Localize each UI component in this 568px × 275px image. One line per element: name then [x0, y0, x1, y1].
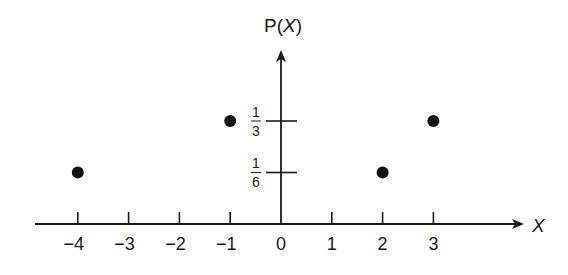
data-point — [427, 115, 439, 127]
x-tick-label: 1 — [327, 234, 337, 254]
probability-plot: −4−3−2−10123 1613 P(X) X — [0, 0, 568, 275]
x-tick-label: −1 — [216, 234, 237, 254]
y-ticks: 1613 — [251, 104, 297, 190]
x-tick-label: 2 — [378, 234, 388, 254]
x-tick-label: −4 — [64, 234, 85, 254]
x-ticks: −4−3−2−10123 — [64, 212, 439, 254]
y-tick-denominator: 6 — [252, 174, 260, 190]
y-tick-denominator: 3 — [252, 123, 260, 139]
x-tick-label: 0 — [276, 234, 286, 254]
data-point — [377, 166, 389, 178]
y-tick-numerator: 1 — [252, 155, 260, 171]
y-axis-label: P(X) — [264, 15, 302, 36]
data-point — [224, 115, 236, 127]
x-tick-label: −2 — [165, 234, 186, 254]
y-tick-numerator: 1 — [252, 104, 260, 120]
x-axis-label: X — [531, 215, 546, 236]
x-tick-label: 3 — [428, 234, 438, 254]
data-point — [72, 166, 84, 178]
x-tick-label: −3 — [114, 234, 135, 254]
